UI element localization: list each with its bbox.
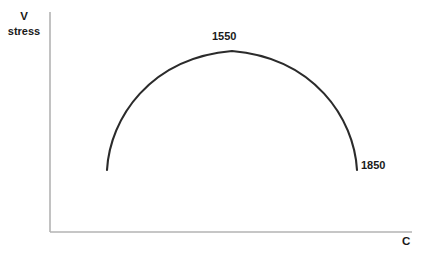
x-axis-label: C: [402, 236, 410, 248]
y-axis-name: stress: [0, 26, 48, 38]
right-endpoint-value-annotation: 1850: [361, 160, 385, 171]
peak-value-annotation: 1550: [212, 31, 236, 42]
stress-vs-c-chart: V stress C 1550 1850: [0, 0, 425, 258]
stress-curve: [107, 51, 357, 170]
y-axis-symbol: V: [0, 10, 48, 22]
y-axis-label: V stress: [0, 10, 48, 38]
